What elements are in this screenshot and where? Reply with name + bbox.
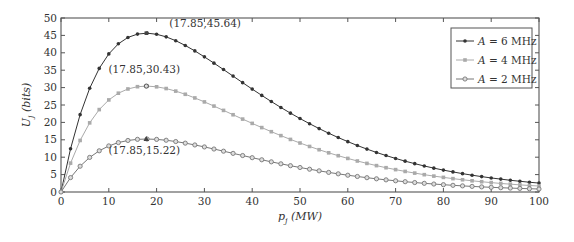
data-point [279,162,283,166]
y-tick-label: 35 [44,64,57,76]
legend-marker [463,58,467,62]
data-point [317,148,321,152]
data-point [288,164,292,168]
data-point [413,180,417,184]
data-point [222,109,226,113]
data-point [499,186,503,190]
data-point [68,175,72,179]
peak-annotation: (17.85,45.64) [169,17,241,29]
data-point [78,113,82,117]
data-point [470,173,474,177]
data-point [88,155,92,159]
data-point [336,136,340,140]
data-point [183,92,187,96]
data-point [117,42,121,46]
data-point [403,180,407,184]
data-point [375,164,379,168]
data-point [174,89,178,93]
data-point [174,39,178,43]
x-tick-label: 0 [58,195,65,207]
data-point [384,178,388,182]
data-point [78,164,82,168]
data-point [336,154,340,158]
data-point [470,179,474,183]
data-point [135,137,139,141]
data-point [346,173,350,177]
data-point [327,131,331,135]
y-tick-label: 40 [44,46,57,58]
data-point [461,172,465,176]
data-point [336,172,340,176]
data-point [317,169,321,173]
data-point [307,167,311,171]
data-point [308,145,312,149]
data-point [183,141,187,145]
data-point [203,55,207,59]
x-tick-label: 50 [293,195,306,207]
data-point [432,166,436,170]
data-point [308,122,312,126]
data-point [193,49,197,53]
data-point [413,162,417,166]
legend-label: A = 4 MHz [477,54,537,66]
peak-annotation: (17.85,15.22) [108,144,180,156]
x-tick-label: 10 [102,195,115,207]
data-point [88,86,92,90]
data-point [164,87,168,91]
data-point [528,180,532,184]
series-a-4-mhz [59,84,541,193]
data-point [499,177,503,181]
peak-annotation: (17.85,30.43) [108,63,180,75]
data-point [384,154,388,158]
data-point [422,173,426,177]
data-point [480,175,484,179]
data-point [107,52,111,56]
data-point [69,161,73,165]
data-point [509,178,513,182]
data-point [489,176,493,180]
data-point [126,138,130,142]
data-point [422,181,426,185]
data-point [231,74,235,78]
data-point [289,111,293,115]
data-point [317,127,321,131]
data-point [432,174,436,178]
legend-marker [463,77,467,81]
data-point [508,186,512,190]
x-tick-label: 100 [529,195,549,207]
data-point [164,138,168,142]
y-tick-label: 25 [44,99,57,111]
data-point [155,32,159,36]
data-point [527,187,531,191]
y-tick-label: 20 [44,116,57,128]
data-point [269,160,273,164]
data-point [279,134,283,138]
peak-marker [144,84,148,88]
data-point [212,147,216,151]
x-tick-label: 70 [389,195,402,207]
x-axis-label: pj (MW) [278,210,322,225]
data-point [355,174,359,178]
data-point [422,164,426,168]
legend: A = 6 MHzA = 4 MHzA = 2 MHz [451,28,537,88]
data-point [241,81,245,85]
data-point [298,117,302,121]
x-tick-label: 30 [198,195,211,207]
data-point [203,100,207,104]
data-point [365,162,369,166]
data-point [403,159,407,163]
data-point [442,168,446,172]
data-point [509,182,513,186]
data-point [327,170,331,174]
data-point [518,186,522,190]
legend-label: A = 6 MHz [477,35,537,47]
data-point [356,144,360,148]
data-point [155,85,159,89]
data-point [136,85,140,89]
data-point [174,139,178,143]
data-point [250,87,254,91]
data-point [241,153,245,157]
data-point [136,32,140,36]
data-point [327,151,331,155]
data-point [480,185,484,189]
